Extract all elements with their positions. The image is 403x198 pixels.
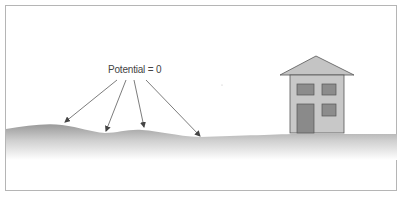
arrow-2 xyxy=(106,80,126,131)
house-roof xyxy=(280,56,354,75)
arrows xyxy=(65,80,200,136)
house-window-top-left xyxy=(297,84,314,95)
arrow-1 xyxy=(65,80,117,122)
house-window-bottom-right xyxy=(322,104,336,116)
house xyxy=(280,56,354,133)
arrow-4 xyxy=(146,80,200,136)
speck xyxy=(221,84,222,85)
house-window-top-right xyxy=(322,84,336,95)
diagram-canvas xyxy=(0,0,403,198)
arrow-3 xyxy=(134,80,144,127)
house-door xyxy=(297,104,314,133)
potential-label: Potential = 0 xyxy=(108,64,161,75)
